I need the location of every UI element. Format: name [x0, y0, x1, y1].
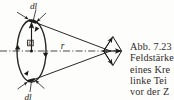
dB-vector-upper: [104, 37, 113, 51]
caption-line-5: vor der Z: [130, 86, 174, 97]
current-arrow-top: [35, 27, 40, 32]
dl-bottom-tick-right: [36, 81, 45, 89]
physics-diagram: a dl dl r: [0, 0, 128, 100]
field-vector-construction: [102, 37, 121, 66]
dl-top-annotation: [17, 10, 46, 23]
label-dl-bottom: dl: [24, 92, 32, 100]
figure-caption: Abb. 7.23 Feldstärke eines Kre linke Tei…: [130, 41, 174, 97]
dB-vector-lower: [104, 51, 113, 65]
caption-line-4: linke Tei: [130, 75, 174, 86]
current-arrow-right: [43, 53, 49, 58]
dl-top-tick-left: [17, 12, 28, 19]
dl-bottom-tick-left: [18, 82, 28, 89]
loop-center-dot: [30, 50, 33, 53]
caption-line-2: Feldstärke: [130, 52, 174, 63]
label-dl-top: dl: [30, 1, 38, 11]
current-arrow-bottom: [24, 70, 29, 75]
caption-line-1: Abb. 7.23: [130, 41, 174, 52]
ray-bottom: [31, 51, 110, 80]
caption-line-3: eines Kre: [130, 64, 174, 75]
label-radius-a: a: [29, 38, 33, 47]
figure-page: a dl dl r: [0, 0, 174, 100]
dl-top-tick-right: [37, 13, 46, 22]
dl-bottom-annotation: [18, 79, 45, 92]
current-arrow-left: [15, 45, 21, 50]
field-point-dot: [102, 50, 104, 52]
dl-bottom-leader: [30, 82, 31, 92]
label-distance-r: r: [61, 41, 65, 51]
